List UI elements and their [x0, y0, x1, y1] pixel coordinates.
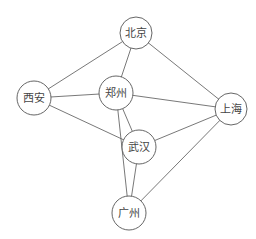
node-label: 上海 [220, 102, 242, 116]
edges-layer [34, 33, 231, 213]
node-guangzhou: 广州 [112, 196, 146, 230]
node-label: 北京 [125, 26, 147, 40]
nodes-layer: 北京西安郑州上海武汉广州 [17, 17, 247, 230]
node-label: 郑州 [105, 86, 127, 100]
node-zhengzhou: 郑州 [99, 76, 133, 110]
node-label: 西安 [23, 91, 45, 105]
node-wuhan: 武汉 [122, 130, 156, 164]
node-label: 广州 [118, 207, 140, 220]
node-beijing: 北京 [120, 17, 152, 49]
node-label: 武汉 [128, 141, 150, 154]
node-shanghai: 上海 [215, 93, 247, 125]
node-xian: 西安 [17, 81, 51, 115]
city-graph-diagram: 北京西安郑州上海武汉广州 [0, 0, 256, 239]
